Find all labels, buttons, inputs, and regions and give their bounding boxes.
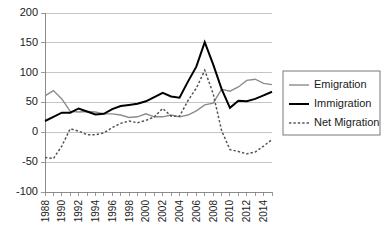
x-tick-label: 2002 <box>157 200 168 223</box>
chart-legend: EmigrationImmigrationNet Migration <box>283 71 380 135</box>
x-tick-label: 2004 <box>174 200 185 223</box>
x-tick-label: 2008 <box>208 200 219 223</box>
series-line-net-migration <box>45 70 272 158</box>
series-line-emigration <box>45 79 272 117</box>
x-tick-label: 2006 <box>191 200 202 223</box>
x-tick-label: 1990 <box>56 200 67 223</box>
x-axis-ticks <box>45 192 272 196</box>
y-tick-label: 50 <box>26 95 38 107</box>
x-tick-label: 1992 <box>73 200 84 223</box>
x-axis-labels: 1988199019921994199619982000200220042006… <box>40 200 270 223</box>
series-group <box>45 42 272 158</box>
legend-label-immigration: Immigration <box>314 97 371 109</box>
y-tick-label: 100 <box>20 66 38 78</box>
y-tick-label: -50 <box>22 155 38 167</box>
migration-line-chart: 200150100500-50-100198819901992199419961… <box>0 0 382 239</box>
x-tick-label: 1996 <box>107 200 118 223</box>
x-tick-label: 1994 <box>90 200 101 223</box>
gridlines-group <box>45 13 272 192</box>
y-tick-label: 150 <box>20 36 38 48</box>
x-tick-label: 2010 <box>224 200 235 223</box>
x-tick-label: 1998 <box>124 200 135 223</box>
legend-label-net-migration: Net Migration <box>314 116 379 128</box>
chart-canvas: 200150100500-50-100198819901992199419961… <box>0 0 382 239</box>
x-tick-label: 2014 <box>258 200 269 223</box>
y-axis-labels: 200150100500-50-100 <box>16 6 45 197</box>
series-line-immigration <box>45 42 272 121</box>
legend-label-emigration: Emigration <box>314 78 367 90</box>
x-tick-label: 2000 <box>140 200 151 223</box>
x-tick-label: 2012 <box>241 200 252 223</box>
y-tick-label: 200 <box>20 6 38 18</box>
x-tick-label: 1988 <box>40 200 51 223</box>
y-tick-label: 0 <box>32 125 38 137</box>
y-tick-label: -100 <box>16 185 38 197</box>
